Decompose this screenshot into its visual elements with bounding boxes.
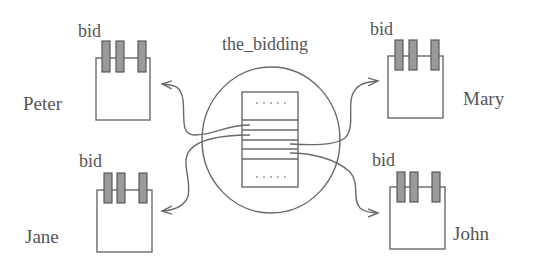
mary-bid-label: bid: [370, 19, 393, 39]
peter-bid-label: bid: [78, 21, 101, 41]
bid-slot-icon: [138, 41, 146, 72]
the-bidding-node: the_bidding: [202, 34, 340, 213]
peter-name: Peter: [23, 93, 63, 114]
john-bid-label: bid: [372, 150, 395, 170]
bid-slot-icon: [116, 41, 124, 72]
bidding-diagram: the_bidding bid: [0, 0, 534, 270]
record-table: [242, 92, 298, 187]
bid-slot-icon: [397, 172, 405, 202]
arrow-to-jane: [162, 135, 250, 211]
participant-peter: bid Peter: [23, 21, 150, 120]
participant-jane: bid Jane: [25, 151, 152, 252]
bid-slot-icon: [410, 172, 418, 202]
bid-slot-icon: [432, 172, 440, 202]
jane-bid-label: bid: [79, 151, 102, 171]
john-name: John: [453, 223, 489, 244]
bid-slot-icon: [117, 173, 125, 203]
bid-slot-icon: [102, 41, 110, 72]
bid-slot-icon: [409, 40, 417, 70]
bid-slot-icon: [104, 173, 112, 203]
bid-slot-icon: [139, 173, 147, 203]
arrow-to-peter: [162, 84, 250, 135]
bid-slot-icon: [395, 40, 403, 70]
arrow-to-mary: [290, 81, 378, 145]
jane-name: Jane: [25, 226, 59, 247]
the-bidding-title: the_bidding: [222, 34, 308, 54]
bid-slot-icon: [431, 40, 439, 70]
participant-john: bid John: [372, 150, 489, 249]
mary-name: Mary: [463, 88, 505, 109]
participant-mary: bid Mary: [370, 19, 505, 118]
